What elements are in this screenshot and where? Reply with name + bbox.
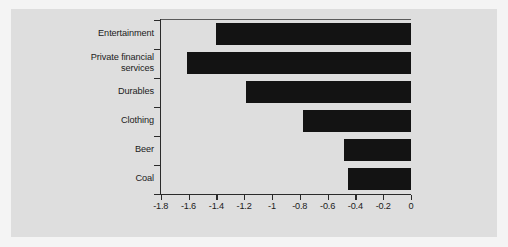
x-axis-tick-label: -0.4 — [348, 201, 363, 211]
x-axis-tick-label: -0.8 — [292, 201, 307, 211]
bar — [303, 110, 411, 132]
y-axis-label: Clothing — [34, 115, 154, 126]
x-axis-tick — [383, 195, 384, 200]
y-axis-label: Beer — [34, 144, 154, 155]
x-axis-tick-label: -1.2 — [237, 201, 252, 211]
bar — [246, 81, 411, 103]
x-axis-tick-label: -0.6 — [320, 201, 335, 211]
y-axis-label: Entertainment — [34, 28, 154, 39]
y-axis-label: Private financial services — [34, 52, 154, 73]
y-axis-tick — [154, 194, 161, 195]
x-axis-tick-label: -1 — [268, 201, 276, 211]
x-axis-tick — [272, 195, 273, 200]
y-axis-tick — [154, 78, 161, 79]
bar — [344, 139, 411, 161]
x-axis-tick-label: -1.8 — [153, 201, 168, 211]
x-axis-tick — [161, 195, 162, 200]
y-axis-label: Coal — [34, 173, 154, 184]
y-axis-tick — [154, 107, 161, 108]
y-axis-tick — [154, 49, 161, 50]
x-axis-tick — [411, 195, 412, 200]
y-axis-tick — [154, 136, 161, 137]
x-axis-tick — [328, 195, 329, 200]
y-axis-label: Durables — [34, 86, 154, 97]
horizontal-bar-chart: EntertainmentPrivate financial servicesD… — [0, 0, 508, 247]
plot-top-rule — [160, 19, 411, 20]
y-axis-tick — [154, 20, 161, 21]
bar — [187, 52, 411, 74]
x-axis-tick-label: -1.6 — [181, 201, 196, 211]
bar — [348, 168, 411, 190]
x-axis-line — [160, 194, 411, 195]
x-axis-tick-label: -1.4 — [209, 201, 224, 211]
bar — [216, 23, 411, 45]
x-axis-tick — [244, 195, 245, 200]
x-axis-tick — [216, 195, 217, 200]
x-axis-tick — [189, 195, 190, 200]
x-axis-tick — [355, 195, 356, 200]
y-axis-tick — [154, 165, 161, 166]
x-axis-tick-label: -0.2 — [376, 201, 391, 211]
x-axis-tick-label: 0 — [409, 201, 414, 211]
chart-screenshot: EntertainmentPrivate financial servicesD… — [0, 0, 508, 247]
x-axis-tick — [300, 195, 301, 200]
